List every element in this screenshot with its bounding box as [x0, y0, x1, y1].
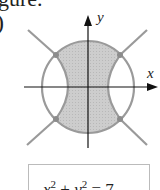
equation-box: x2 + y2 = 7: [28, 164, 150, 190]
x-axis-arrow-icon: [147, 83, 158, 91]
conic-figure: x y: [0, 0, 160, 190]
y-axis-label: y: [95, 9, 104, 25]
eq-plus: +: [56, 180, 74, 190]
x-axis-label: x: [146, 65, 154, 81]
eq-x: x: [43, 180, 51, 190]
eq-equals: =: [87, 180, 105, 190]
eq-rhs: 7: [105, 180, 114, 190]
y-axis-arrow-icon: [84, 15, 92, 26]
eq-y: y: [74, 180, 82, 190]
circle-equation: x2 + y2 = 7: [43, 178, 114, 190]
